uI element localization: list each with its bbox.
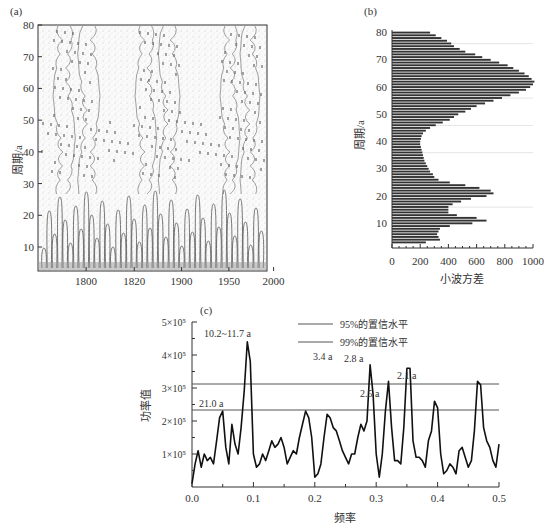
- variance-bar: [392, 160, 424, 162]
- variance-bar: [392, 89, 526, 91]
- variance-bar: [392, 40, 447, 42]
- a-speckle: [65, 153, 67, 156]
- variance-bar: [392, 116, 454, 118]
- a-speckle: [197, 132, 199, 135]
- a-speckle: [200, 123, 202, 126]
- a-speckle: [230, 33, 232, 36]
- a-speckle: [263, 159, 265, 162]
- a-speckle: [97, 157, 99, 160]
- a-speckle: [144, 116, 146, 119]
- a-speckle: [260, 168, 262, 171]
- a-speckle: [163, 109, 165, 112]
- a-speckle: [71, 60, 73, 63]
- a-speckle: [261, 65, 263, 68]
- a-speckle: [157, 127, 159, 130]
- a-speckle: [255, 158, 257, 161]
- a-speckle: [221, 60, 223, 63]
- a-speckle: [178, 64, 180, 67]
- annotation-21a: 21.0 a: [199, 398, 224, 409]
- a-speckle: [236, 165, 238, 168]
- a-speckle: [145, 163, 147, 166]
- a-speckle: [163, 34, 165, 37]
- a-speckle: [78, 164, 80, 167]
- a-speckle: [60, 143, 62, 146]
- a-speckle: [78, 89, 80, 92]
- a-speckle: [162, 137, 164, 140]
- a-speckle: [68, 144, 70, 147]
- a-speckle: [139, 106, 141, 109]
- a-speckle: [250, 148, 252, 151]
- a-speckle: [258, 149, 260, 152]
- a-speckle: [172, 157, 174, 160]
- a-speckle: [243, 119, 245, 122]
- b-ytick-label: 80: [376, 26, 388, 38]
- a-speckle: [133, 124, 135, 127]
- a-speckle: [56, 30, 58, 33]
- a-speckle: [226, 70, 228, 73]
- a-speckle: [152, 117, 154, 120]
- a-ytick-label: 60: [23, 82, 35, 94]
- a-speckle: [231, 80, 233, 83]
- a-speckle: [66, 125, 68, 128]
- variance-bar: [392, 173, 433, 175]
- a-speckle: [259, 121, 261, 124]
- a-speckle: [180, 158, 182, 161]
- c-ytick-label: 4×10⁵: [162, 350, 186, 361]
- a-speckle: [72, 32, 74, 35]
- a-speckle: [218, 144, 220, 147]
- a-speckle: [237, 62, 239, 65]
- a-speckle: [235, 43, 237, 46]
- a-speckle: [86, 165, 88, 168]
- variance-bar: [392, 187, 479, 189]
- a-speckle: [239, 81, 241, 84]
- a-speckle: [159, 146, 161, 149]
- variance-bar: [392, 143, 420, 145]
- a-speckle: [170, 138, 172, 141]
- a-speckle: [241, 175, 243, 178]
- a-speckle: [169, 91, 171, 94]
- a-ytick-label: 50: [23, 114, 35, 126]
- a-speckle: [116, 150, 118, 153]
- a-speckle: [167, 147, 169, 150]
- variance-bar: [392, 154, 423, 156]
- variance-bar: [392, 135, 422, 137]
- variance-bar: [392, 141, 420, 143]
- a-speckle: [205, 133, 207, 136]
- a-speckle: [139, 31, 141, 34]
- variance-bar: [392, 233, 437, 235]
- variance-bar: [392, 138, 421, 140]
- a-speckle: [70, 88, 72, 91]
- c-ytick-label: 1×10⁵: [162, 449, 186, 460]
- a-xtick-label: 1820: [123, 275, 146, 287]
- a-speckle: [157, 52, 159, 55]
- a-speckle: [223, 79, 225, 82]
- a-speckle: [224, 51, 226, 54]
- a-speckle: [50, 123, 52, 126]
- variance-bar: [392, 184, 465, 186]
- a-speckle: [173, 54, 175, 57]
- variance-bar: [392, 94, 510, 96]
- a-speckle: [241, 100, 243, 103]
- a-speckle: [84, 146, 86, 149]
- variance-bar: [392, 171, 430, 173]
- a-speckle: [109, 121, 111, 124]
- b-ytick-label: 50: [376, 108, 388, 120]
- a-speckle: [186, 140, 188, 143]
- a-speckle: [111, 140, 113, 143]
- a-speckle: [79, 61, 81, 64]
- variance-bar: [392, 190, 491, 192]
- a-speckle: [74, 51, 76, 54]
- variance-bar: [392, 86, 530, 88]
- a-speckle: [76, 145, 78, 148]
- a-speckle: [151, 145, 153, 148]
- a-speckle: [219, 116, 221, 119]
- a-speckle: [202, 142, 204, 145]
- a-speckle: [146, 135, 148, 138]
- panel-b-bars: [392, 32, 534, 244]
- a-speckle: [249, 101, 251, 104]
- a-speckle: [247, 157, 249, 160]
- a-speckle: [223, 154, 225, 157]
- a-speckle: [77, 42, 79, 45]
- variance-bar: [392, 228, 440, 230]
- variance-bar: [392, 119, 450, 121]
